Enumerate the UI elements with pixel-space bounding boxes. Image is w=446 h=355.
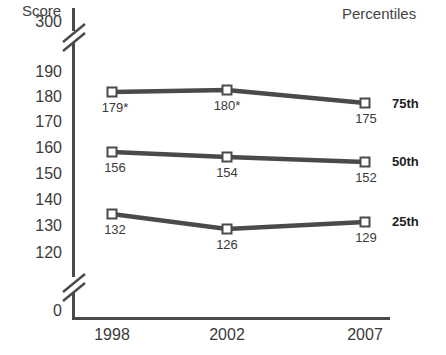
chart-container: Score Percentiles 300 190 180 170 160 15… bbox=[0, 0, 446, 355]
y-tick-180: 180 bbox=[14, 89, 62, 105]
data-point-50th-2002 bbox=[223, 153, 232, 162]
x-tick-2007: 2007 bbox=[330, 327, 400, 343]
series-line-50th bbox=[108, 148, 370, 167]
y-tick-120: 120 bbox=[14, 245, 62, 261]
data-point-50th-1998 bbox=[108, 148, 117, 157]
legend-item-75th: 75th bbox=[392, 97, 419, 110]
x-tick-2002: 2002 bbox=[192, 327, 262, 343]
data-label-25th-2007: 129 bbox=[339, 231, 393, 244]
legend-title: Percentiles bbox=[342, 6, 416, 21]
data-point-25th-2002 bbox=[223, 225, 232, 234]
data-label-50th-2002: 154 bbox=[200, 166, 254, 179]
y-tick-0: 0 bbox=[14, 303, 62, 319]
data-point-75th-2002 bbox=[223, 86, 232, 95]
legend-item-50th: 50th bbox=[392, 155, 419, 168]
y-tick-150: 150 bbox=[14, 166, 62, 182]
y-tick-130: 130 bbox=[14, 218, 62, 234]
y-tick-160: 160 bbox=[14, 140, 62, 156]
data-point-75th-2007 bbox=[361, 99, 370, 108]
data-point-25th-2007 bbox=[361, 218, 370, 227]
y-tick-140: 140 bbox=[14, 192, 62, 208]
data-label-75th-1998: 179* bbox=[88, 101, 142, 114]
y-tick-190: 190 bbox=[14, 64, 62, 80]
series-line-25th bbox=[108, 210, 370, 234]
data-label-75th-2007: 175 bbox=[339, 112, 393, 125]
data-label-25th-2002: 126 bbox=[200, 238, 254, 251]
y-tick-170: 170 bbox=[14, 114, 62, 130]
data-point-75th-1998 bbox=[108, 88, 117, 97]
data-label-25th-1998: 132 bbox=[88, 223, 142, 236]
data-point-25th-1998 bbox=[108, 210, 117, 219]
data-label-50th-1998: 156 bbox=[88, 161, 142, 174]
x-tick-1998: 1998 bbox=[77, 327, 147, 343]
y-tick-300: 300 bbox=[14, 14, 62, 30]
data-label-75th-2002: 180* bbox=[200, 99, 254, 112]
legend-item-25th: 25th bbox=[392, 215, 419, 228]
data-point-50th-2007 bbox=[361, 158, 370, 167]
data-label-50th-2007: 152 bbox=[339, 171, 393, 184]
